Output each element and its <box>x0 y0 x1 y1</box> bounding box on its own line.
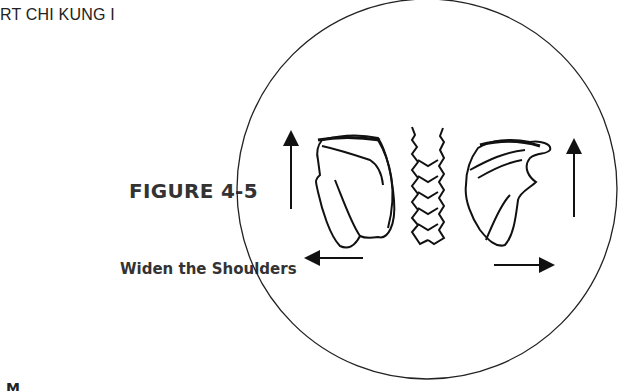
left-scapula-icon <box>316 136 394 248</box>
right-scapula-icon <box>466 140 551 246</box>
shoulder-illustration <box>0 0 621 391</box>
spine-icon <box>412 127 444 244</box>
circle-frame <box>237 0 617 379</box>
